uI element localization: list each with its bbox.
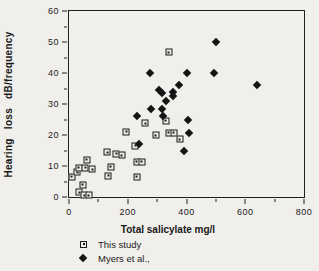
data-point-diamond xyxy=(162,97,170,105)
y-tick-label: 20 xyxy=(48,130,59,140)
y-major-tick xyxy=(62,42,67,43)
x-major-tick xyxy=(304,199,305,204)
data-point-diamond xyxy=(169,92,177,100)
x-tick-label: 800 xyxy=(296,207,313,217)
data-point-square xyxy=(104,149,111,156)
legend-label-myers: Myers et al., xyxy=(94,253,150,264)
data-point-diamond xyxy=(180,146,188,154)
x-axis-title: Total salicylate mg/l xyxy=(68,224,268,235)
y-tick-label: 30 xyxy=(48,99,59,109)
data-point-square xyxy=(176,136,183,143)
data-point-square xyxy=(79,181,86,188)
figure: Hearing loss dB/frequency 02004006008000… xyxy=(0,0,319,271)
x-minor-tick xyxy=(274,199,275,202)
y-major-tick xyxy=(62,197,67,198)
x-minor-tick xyxy=(98,199,99,202)
data-point-diamond xyxy=(146,104,154,112)
data-point-square xyxy=(133,173,140,180)
data-point-diamond xyxy=(175,81,183,89)
data-point-square xyxy=(118,152,125,159)
x-tick-label: 0 xyxy=(66,207,72,217)
y-axis-title-wrap: Hearing loss dB/frequency xyxy=(0,10,17,198)
legend-item-myers: Myers et al., xyxy=(80,251,150,265)
plot-points-layer xyxy=(69,11,304,197)
x-tick-label: 600 xyxy=(237,207,254,217)
y-tick-label: 60 xyxy=(48,6,59,16)
x-minor-tick xyxy=(215,199,216,202)
data-point-diamond xyxy=(133,112,141,120)
filled-diamond-marker-icon xyxy=(80,255,94,261)
data-point-diamond xyxy=(182,69,190,77)
plot-area: 02004006008000102030405060 xyxy=(68,10,305,198)
data-point-square xyxy=(83,156,90,163)
data-point-square xyxy=(123,128,130,135)
y-tick-label: 10 xyxy=(48,161,59,171)
legend-item-this-study: This study xyxy=(80,237,150,251)
y-minor-tick xyxy=(64,181,67,182)
y-axis-title: Hearing loss dB/frequency xyxy=(3,31,14,177)
y-minor-tick xyxy=(64,57,67,58)
y-minor-tick xyxy=(64,26,67,27)
data-point-square xyxy=(82,164,89,171)
x-major-tick xyxy=(127,199,128,204)
x-minor-tick xyxy=(157,199,158,202)
y-minor-tick xyxy=(64,150,67,151)
data-point-square xyxy=(107,163,114,170)
legend-label-this-study: This study xyxy=(94,239,141,250)
data-point-diamond xyxy=(253,81,261,89)
data-point-diamond xyxy=(185,129,193,137)
data-point-diamond xyxy=(146,69,154,77)
data-point-square xyxy=(105,172,112,179)
x-tick-label: 200 xyxy=(119,207,136,217)
x-major-tick xyxy=(186,199,187,204)
data-point-square xyxy=(152,132,159,139)
data-point-diamond xyxy=(212,38,220,46)
y-major-tick xyxy=(62,11,67,12)
data-point-square xyxy=(138,158,145,165)
y-major-tick xyxy=(62,135,67,136)
y-tick-label: 0 xyxy=(53,192,59,202)
x-major-tick xyxy=(69,199,70,204)
data-point-diamond xyxy=(184,115,192,123)
y-minor-tick xyxy=(64,88,67,89)
data-point-square xyxy=(85,192,92,199)
data-point-diamond xyxy=(210,69,218,77)
data-point-square xyxy=(89,166,96,173)
data-point-square xyxy=(142,120,149,127)
x-tick-label: 400 xyxy=(178,207,195,217)
data-point-square xyxy=(165,49,172,56)
y-tick-label: 50 xyxy=(48,37,59,47)
y-tick-label: 40 xyxy=(48,68,59,78)
y-major-tick xyxy=(62,73,67,74)
open-square-marker-icon xyxy=(80,241,94,248)
y-major-tick xyxy=(62,166,67,167)
x-major-tick xyxy=(245,199,246,204)
y-minor-tick xyxy=(64,119,67,120)
y-major-tick xyxy=(62,104,67,105)
legend: This study Myers et al., xyxy=(80,237,150,265)
